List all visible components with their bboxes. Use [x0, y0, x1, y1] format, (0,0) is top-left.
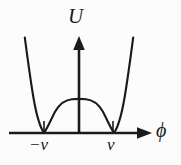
tick-label-minus-v: −v: [29, 136, 48, 153]
x-axis-label: ϕ: [156, 120, 166, 140]
double-well-potential-figure: U ϕ −v v: [0, 0, 181, 165]
tick-label-v: v: [107, 136, 115, 153]
x-axis-arrowhead: [137, 127, 152, 139]
plot-canvas: [0, 0, 181, 165]
y-axis-arrowhead: [73, 36, 85, 50]
y-axis-label: U: [68, 6, 83, 27]
